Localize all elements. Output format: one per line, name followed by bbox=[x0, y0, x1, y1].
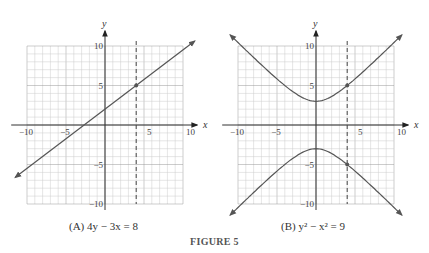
y-tick-label: 5 bbox=[99, 81, 104, 91]
y-tick-label: −5 bbox=[304, 160, 314, 170]
x-tick-label: 10 bbox=[186, 127, 196, 137]
y-axis-label: y bbox=[312, 18, 318, 29]
x-axis-label: x bbox=[413, 119, 419, 130]
y-tick-label: 5 bbox=[310, 81, 315, 91]
chart-a: xy−10−5510105−5−10 bbox=[11, 18, 208, 210]
x-tick-label: 5 bbox=[358, 127, 363, 137]
y-axis-label: y bbox=[101, 18, 107, 29]
marked-point bbox=[345, 163, 349, 167]
marked-point bbox=[345, 84, 349, 88]
x-tick-label: −10 bbox=[230, 127, 245, 137]
x-tick-label: 10 bbox=[397, 127, 407, 137]
y-tick-label: 10 bbox=[305, 41, 315, 51]
y-tick-label: 10 bbox=[94, 41, 104, 51]
chart-b: xy−10−5510105−5−10 bbox=[222, 18, 419, 215]
x-axis-label: x bbox=[202, 119, 208, 130]
figure-title: FIGURE 5 bbox=[0, 236, 429, 247]
figure-canvas: xy−10−5510105−5−10 xy−10−5510105−5−10 bbox=[0, 0, 429, 253]
x-tick-label: −5 bbox=[60, 127, 70, 137]
y-tick-label: −10 bbox=[89, 199, 104, 209]
y-tick-label: −10 bbox=[300, 199, 315, 209]
marked-point bbox=[134, 84, 138, 88]
x-tick-label: 5 bbox=[147, 127, 152, 137]
y-tick-label: −5 bbox=[93, 160, 103, 170]
x-tick-label: −5 bbox=[271, 127, 281, 137]
caption-a: (A) 4y − 3x = 8 bbox=[69, 220, 138, 232]
caption-b: (B) y² − x² = 9 bbox=[281, 220, 345, 232]
x-tick-label: −10 bbox=[19, 127, 34, 137]
